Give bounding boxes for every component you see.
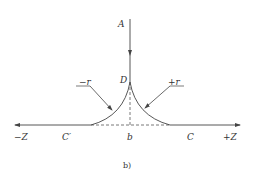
label-c-prime: C′ — [62, 132, 71, 142]
label-d: D — [119, 75, 127, 85]
label-minus-z: −Z — [14, 132, 29, 142]
figure-caption: b) — [123, 161, 131, 170]
dashed-guides — [91, 82, 170, 125]
label-plus-z: +Z — [223, 132, 238, 142]
label-a: A — [117, 19, 125, 29]
leader-plus-r — [145, 86, 184, 108]
diagram: A D −r +r −Z C′ b C +Z b) — [0, 0, 255, 179]
label-plus-r: +r — [168, 77, 181, 87]
label-c: C — [187, 132, 194, 142]
label-minus-r: −r — [79, 77, 92, 87]
label-b: b — [127, 132, 133, 142]
curve-minus-r — [91, 82, 130, 125]
leader-minus-r — [76, 86, 112, 110]
